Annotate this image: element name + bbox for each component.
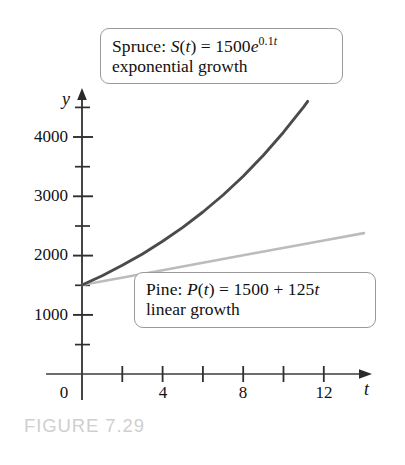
pine-description: linear growth [146,299,364,319]
x-origin-label: 0 [53,383,75,403]
spruce-callout: Spruce: S(t) = 1500e0.1t exponential gro… [100,28,343,84]
figure-container: y t 4000 3000 2000 1000 0 4 8 12 Spruce:… [0,0,405,465]
pine-equals: = [215,279,234,299]
x-tick-label-8: 8 [232,383,254,403]
x-axis-arrowhead [359,369,372,379]
spruce-exponent: 0.1t [259,34,278,48]
pine-arg-var: t [204,279,209,299]
y-tick-label-2000: 2000 [6,245,68,265]
pine-plus: + [269,279,288,299]
spruce-prefix: Spruce: [112,36,171,56]
spruce-coefficient: 1500 [215,36,250,56]
pine-prefix: Pine: [146,279,187,299]
pine-slope: 125 [288,279,315,299]
pine-slope-variable: t [314,279,319,299]
spruce-equals: = [196,36,215,56]
y-axis-arrowhead [77,88,87,100]
spruce-argument: (t) [180,36,197,56]
pine-argument: (t) [198,279,215,299]
spruce-description: exponential growth [112,56,331,76]
x-axis-label: t [364,379,369,400]
spruce-arg-var: t [185,36,190,56]
pine-intercept: 1500 [234,279,269,299]
spruce-exponent-variable: t [274,34,277,48]
y-tick-label-1000: 1000 [6,305,68,325]
spruce-curve-series [82,101,308,285]
spruce-formula: Spruce: S(t) = 1500e0.1t [112,35,331,56]
y-tick-label-4000: 4000 [6,127,68,147]
x-tick-label-4: 4 [152,383,174,403]
y-tick-label-3000: 3000 [6,186,68,206]
y-axis-label: y [62,89,70,110]
spruce-function-name: S [171,36,180,56]
spruce-exponent-number: 0.1 [259,34,274,48]
pine-callout: Pine: P(t) = 1500 + 125t linear growth [134,272,376,328]
figure-caption: FIGURE 7.29 [24,415,145,437]
spruce-base: e [251,36,259,56]
x-tick-label-12: 12 [310,383,338,403]
pine-formula: Pine: P(t) = 1500 + 125t [146,279,364,299]
pine-function-name: P [187,279,198,299]
